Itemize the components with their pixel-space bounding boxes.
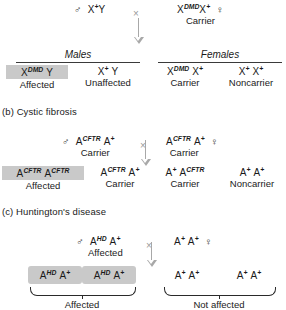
section-b-offspring-4: A+ A+ Noncarrier [219, 166, 285, 189]
father-phenotype: Carrier [62, 147, 115, 158]
section-a-x-linked: ♂ X+Y × XDMDX+ ♀ Carrier Males Females X… [0, 0, 286, 26]
section-a-father: ♂ X+Y [74, 3, 105, 15]
offspring-genotype: AHD A+ [82, 266, 136, 284]
father-genotype: ♂ ACFTR A+ [62, 135, 115, 147]
father-phenotype: Affected [74, 247, 123, 258]
section-a-offspring-4: X+ X+ Noncarrier [218, 65, 284, 88]
mother-genotype: ACFTR A+ ♀ [166, 135, 219, 147]
section-b-cystic-fibrosis: (b) Cystic fibrosis ♂ ACFTR A+ Carrier ×… [0, 106, 286, 145]
father-genotype: ♂ AHD A+ [74, 235, 123, 247]
offspring-phenotype: Carrier [84, 178, 156, 189]
section-c-father: ♂ AHD A+ Affected [74, 235, 123, 258]
group-rule-females [158, 62, 282, 63]
offspring-phenotype: Noncarrier [218, 77, 284, 88]
section-c-huntingtons-disease: (c) Huntington's disease ♂ AHD A+ Affect… [0, 206, 286, 245]
section-b-offspring-2: ACFTR A+ Carrier [84, 166, 156, 189]
mother-phenotype: Carrier [177, 15, 224, 26]
section-c-mother: A+ A+ ♀ [174, 235, 212, 247]
offspring-genotype: XDMD Y [6, 65, 68, 79]
arrow-head [134, 37, 144, 44]
arrow-shaft [151, 242, 153, 260]
section-b-title: (b) Cystic fibrosis [2, 106, 286, 117]
offspring-genotype: XDMD X+ [150, 65, 220, 77]
brace-label-not-affected: Not affected [164, 299, 274, 310]
section-b-arrow [140, 140, 151, 166]
male-symbol: ♂ [76, 236, 84, 247]
offspring-genotype: A+ A+ [160, 269, 214, 281]
section-c-title: (c) Huntington's disease [2, 206, 286, 217]
brace-not-affected [164, 287, 276, 296]
arrow-shaft [145, 140, 147, 159]
arrow-head [141, 159, 151, 166]
offspring-genotype: ACFTR ACFTR [2, 166, 84, 180]
mother-genotype: A+ A+ ♀ [174, 235, 212, 247]
section-a-arrow [133, 18, 144, 44]
offspring-phenotype: Carrier [149, 178, 221, 189]
section-a-mother: XDMDX+ ♀ Carrier [177, 3, 224, 26]
female-symbol: ♀ [216, 4, 224, 15]
father-genotype: ♂ X+Y [74, 3, 105, 15]
brace-affected [30, 287, 136, 296]
offspring-genotype: A+ A+ [219, 166, 285, 178]
group-header-males: Males [16, 49, 140, 60]
section-a-offspring-3: XDMD X+ Carrier [150, 65, 220, 88]
male-symbol: ♂ [62, 136, 70, 147]
offspring-genotype: AHD A+ [28, 266, 82, 284]
section-c-offspring-1: AHD A+ [28, 266, 82, 284]
female-symbol: ♀ [205, 236, 213, 247]
offspring-genotype: A+ A+ [222, 269, 276, 281]
section-b-offspring-3: A+ ACFTR Carrier [149, 166, 221, 189]
brace-label-affected: Affected [30, 299, 134, 310]
offspring-phenotype: Unaffected [73, 77, 143, 88]
section-c-offspring-4: A+ A+ [222, 269, 276, 281]
section-b-mother: ACFTR A+ ♀ Carrier [166, 135, 219, 158]
mother-genotype: XDMDX+ ♀ [177, 3, 224, 15]
section-b-offspring-1: ACFTR ACFTR Affected [2, 166, 84, 191]
mother-phenotype: Carrier [166, 147, 219, 158]
offspring-phenotype: Noncarrier [219, 178, 285, 189]
offspring-genotype: A+ ACFTR [149, 166, 221, 178]
section-c-arrow [146, 242, 157, 267]
group-header-females: Females [158, 49, 282, 60]
section-c-parents: ♂ AHD A+ Affected × A+ A+ ♀ [0, 219, 286, 245]
female-symbol: ♀ [211, 136, 219, 147]
arrow-shaft [138, 18, 140, 37]
offspring-phenotype: Affected [2, 180, 84, 191]
arrow-head [147, 260, 157, 267]
group-rule-males [16, 62, 140, 63]
section-b-father: ♂ ACFTR A+ Carrier [62, 135, 115, 158]
offspring-genotype: X+ Y [73, 65, 143, 77]
offspring-phenotype: Carrier [150, 77, 220, 88]
offspring-phenotype: Affected [6, 79, 68, 90]
section-a-offspring-1: XDMD Y Affected [6, 65, 68, 90]
offspring-genotype: X+ X+ [218, 65, 284, 77]
offspring-genotype: ACFTR A+ [84, 166, 156, 178]
section-a-offspring-2: X+ Y Unaffected [73, 65, 143, 88]
section-c-offspring-3: A+ A+ [160, 269, 214, 281]
male-symbol: ♂ [74, 4, 82, 15]
section-c-offspring-2: AHD A+ [82, 266, 136, 284]
